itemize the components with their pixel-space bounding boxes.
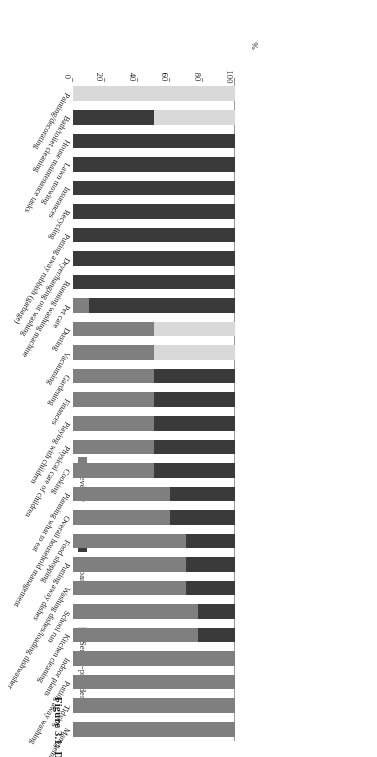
bar-segment-husband <box>186 534 235 549</box>
bar-row <box>73 463 235 478</box>
bar-row <box>73 510 235 525</box>
bar-row <box>73 675 235 690</box>
bar-row <box>73 487 235 502</box>
bar-segment-beverley <box>73 581 186 596</box>
stacked-bar <box>73 675 235 690</box>
bar-row <box>73 134 235 149</box>
stacked-bar <box>73 440 235 455</box>
value-axis: 020406080100 <box>73 42 235 82</box>
bar-row <box>73 181 235 196</box>
bar-row <box>73 581 235 596</box>
stacked-bar <box>73 251 235 266</box>
bar-segment-husband <box>89 298 235 313</box>
bar-segment-beverley <box>73 722 235 737</box>
bar-segment-husband <box>198 628 235 643</box>
bar-row <box>73 345 235 360</box>
stacked-bar <box>73 157 235 172</box>
bar-segment-beverley <box>73 322 154 337</box>
stacked-bar <box>73 345 235 360</box>
bar-row <box>73 228 235 243</box>
bar-segment-husband <box>154 369 235 384</box>
bar-segment-husband <box>73 204 235 219</box>
stacked-bar <box>73 698 235 713</box>
category-label: Dusting <box>51 326 72 353</box>
bar-rows <box>73 82 235 741</box>
bar-row <box>73 698 235 713</box>
bar-row <box>73 557 235 572</box>
figure-canvas: Figure 3.1: Division/sharing of househol… <box>0 0 377 757</box>
bar-segment-husband <box>186 581 235 596</box>
bar-row <box>73 110 235 125</box>
stacked-bar <box>73 722 235 737</box>
axis-tick-label: 100 <box>225 71 235 84</box>
axis-tick-label: 0 <box>63 75 73 79</box>
value-axis-title: % <box>250 42 260 50</box>
stacked-bar <box>73 204 235 219</box>
bar-segment-beverley <box>73 369 154 384</box>
bar-segment-beverley <box>73 628 198 643</box>
bar-segment-husband <box>154 416 235 431</box>
bar-segment-beverley <box>73 534 186 549</box>
bar-row <box>73 204 235 219</box>
bar-segment-husband <box>73 251 235 266</box>
stacked-bar <box>73 581 235 596</box>
stacked-bar <box>73 87 235 102</box>
axis-tick-label: 80 <box>193 73 203 82</box>
bar-segment-service-provider <box>73 87 235 102</box>
bar-segment-beverley <box>73 463 154 478</box>
bar-segment-husband <box>73 157 235 172</box>
bar-row <box>73 416 235 431</box>
bar-segment-husband <box>73 228 235 243</box>
bar-row <box>73 604 235 619</box>
bar-row <box>73 722 235 737</box>
bar-row <box>73 651 235 666</box>
bar-row <box>73 298 235 313</box>
axis-tick-label: 40 <box>128 73 138 82</box>
bar-row <box>73 440 235 455</box>
bar-segment-beverley <box>73 298 89 313</box>
bar-segment-beverley <box>73 416 154 431</box>
stacked-bar <box>73 392 235 407</box>
bar-segment-beverley <box>73 345 154 360</box>
stacked-bar <box>73 604 235 619</box>
bar-row <box>73 251 235 266</box>
bar-segment-husband <box>170 510 235 525</box>
bar-row <box>73 157 235 172</box>
bar-segment-beverley <box>73 698 235 713</box>
axis-tick-label: 60 <box>160 73 170 82</box>
bar-segment-husband <box>154 392 235 407</box>
bar-row <box>73 628 235 643</box>
bar-segment-husband <box>73 134 235 149</box>
bar-segment-service-provider <box>154 345 235 360</box>
stacked-bar <box>73 463 235 478</box>
rotated-figure-wrapper: Figure 3.1: Division/sharing of househol… <box>0 0 377 757</box>
bar-segment-beverley <box>73 440 154 455</box>
bar-segment-beverley <box>73 392 154 407</box>
bar-segment-service-provider <box>154 322 235 337</box>
stacked-bar <box>73 322 235 337</box>
bar-segment-beverley <box>73 651 235 666</box>
bar-segment-husband <box>186 557 235 572</box>
bar-row <box>73 392 235 407</box>
bar-row <box>73 534 235 549</box>
bar-segment-husband <box>73 275 235 290</box>
bar-segment-husband <box>73 110 154 125</box>
stacked-bar <box>73 275 235 290</box>
bar-row <box>73 369 235 384</box>
bar-segment-husband <box>170 487 235 502</box>
stacked-bar <box>73 510 235 525</box>
bar-row <box>73 275 235 290</box>
bar-row <box>73 87 235 102</box>
plot-area: Management of cleanerTidyingPutting away… <box>73 82 235 741</box>
bar-segment-beverley <box>73 675 235 690</box>
stacked-bar <box>73 416 235 431</box>
bar-segment-service-provider <box>154 110 235 125</box>
bar-segment-beverley <box>73 557 186 572</box>
bar-segment-husband <box>154 440 235 455</box>
stacked-bar <box>73 369 235 384</box>
stacked-bar <box>73 534 235 549</box>
stacked-bar <box>73 298 235 313</box>
stacked-bar <box>73 228 235 243</box>
stacked-bar <box>73 110 235 125</box>
bar-segment-beverley <box>73 604 198 619</box>
